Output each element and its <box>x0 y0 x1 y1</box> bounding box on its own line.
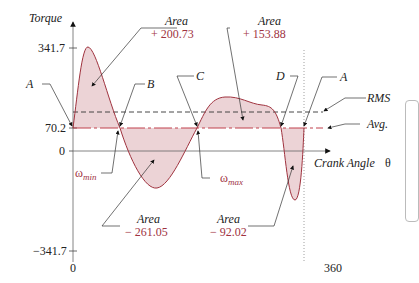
leader-A-right <box>304 77 337 126</box>
leader-C <box>177 76 197 126</box>
area-1-value: + 200.73 <box>151 27 194 41</box>
area-3-title: Area <box>136 212 160 226</box>
side-panel-edge <box>405 100 419 222</box>
y-tick-max: 341.7 <box>38 41 65 55</box>
leader-avg <box>328 124 360 128</box>
x-tick-zero: 0 <box>70 261 76 275</box>
leader-rms <box>324 98 366 111</box>
torque-area-fill <box>73 47 304 200</box>
leader-omega-min <box>101 131 118 173</box>
point-A-right: A <box>339 70 348 84</box>
point-B: B <box>147 77 155 91</box>
area-2-title: Area <box>257 14 281 28</box>
area-4-value: − 92.02 <box>210 225 247 239</box>
point-D: D <box>275 69 285 83</box>
theta-symbol: θ <box>385 156 391 170</box>
leader-A-left <box>42 84 72 126</box>
area-4-title: Area <box>216 212 240 226</box>
y-tick-min: −341.7 <box>33 244 67 258</box>
x-axis-title: Crank Angle <box>314 156 375 170</box>
x-tick-360: 360 <box>324 261 342 275</box>
leader-B <box>120 84 145 126</box>
leader-omega-max <box>198 131 210 178</box>
point-C: C <box>196 69 205 83</box>
leader-D <box>281 76 298 126</box>
omega-max-label: ωmax <box>220 171 243 187</box>
leader-area-4 <box>248 166 293 226</box>
y-axis-title: Torque <box>29 11 63 25</box>
y-tick-avg: 70.2 <box>45 121 66 135</box>
rms-label: RMS <box>366 91 390 105</box>
avg-label: Avg. <box>366 117 388 131</box>
y-tick-zero: 0 <box>59 144 65 158</box>
area-1-title: Area <box>164 14 188 28</box>
point-A-left: A <box>25 77 34 91</box>
area-2-value: + 153.88 <box>243 27 286 41</box>
area-3-value: − 261.05 <box>125 225 168 239</box>
omega-min-label: ωmin <box>75 166 97 182</box>
